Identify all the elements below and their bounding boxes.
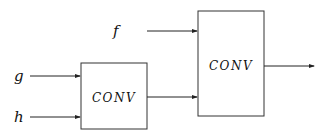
input-label-f: f — [112, 22, 121, 40]
conv-block-2-label: CONV — [209, 59, 253, 73]
conv-block-2: CONV — [198, 11, 264, 116]
conv-block-1: CONV — [81, 63, 147, 129]
conv-block-1-label: CONV — [92, 91, 136, 105]
input-label-g: g — [14, 67, 24, 85]
convolution-block-diagram: f g h CONV CONV — [0, 0, 332, 137]
input-label-h: h — [14, 108, 24, 126]
